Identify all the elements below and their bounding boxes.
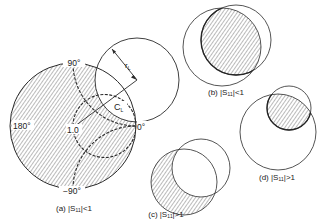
label-0deg: 0° bbox=[137, 122, 145, 132]
label-center-1: 1.0 bbox=[67, 125, 79, 135]
panel-d: (d) |S₁₁|>1 bbox=[240, 86, 316, 182]
label-rl: rL bbox=[125, 61, 131, 71]
caption-b: (b) |S₁₁|<1 bbox=[208, 88, 245, 97]
panel-b: (b) |S₁₁|<1 bbox=[183, 5, 271, 97]
caption-d: (d) |S₁₁|>1 bbox=[259, 173, 296, 182]
arrowhead-icon bbox=[131, 75, 137, 80]
label-90deg: 90° bbox=[68, 58, 81, 68]
label-minus90deg: −90° bbox=[63, 186, 81, 196]
stability-circles-diagram: 90° 180° 1.0 0° −90° CL rL (a) |S₁₁|<1 (… bbox=[0, 0, 318, 221]
caption-c: (c) |S₁₁|>1 bbox=[148, 210, 184, 219]
panel-c: (c) |S₁₁|>1 bbox=[148, 139, 230, 219]
label-180deg: 180° bbox=[13, 121, 31, 131]
caption-a: (a) |S₁₁|<1 bbox=[56, 204, 93, 213]
